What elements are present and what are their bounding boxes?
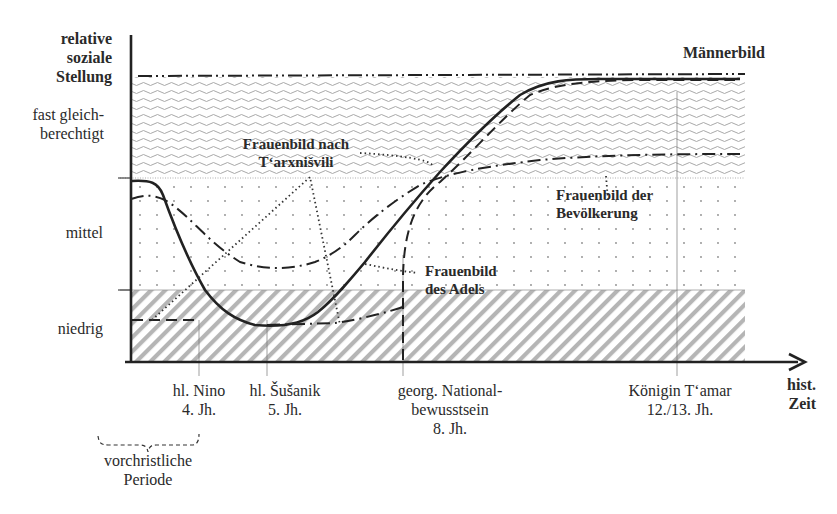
bracket-icon	[98, 434, 199, 452]
label-adel: Frauenbild des Adels	[425, 263, 497, 298]
band-high	[132, 77, 745, 178]
x-tick-susanik: hl. Šušanik 5. Jh.	[225, 382, 345, 420]
y-axis-title: relative soziale Stellung	[40, 30, 112, 87]
label-tarxnisvili: Frauenbild nach T‘arxnišvili	[236, 136, 356, 171]
x-axis-title: hist. Zeit	[760, 376, 816, 414]
x-tick-national: georg. National- bewusstsein 8. Jh.	[375, 382, 525, 439]
bracket-label: vorchristliche Periode	[92, 452, 204, 490]
label-maennerbild: Männerbild	[683, 44, 765, 63]
y-level-low: niedrig	[8, 320, 103, 339]
series-maennerbild	[138, 74, 745, 76]
x-tick-tamar: Königin T‘amar 12./13. Jh.	[605, 382, 755, 420]
label-bevoelkerung: Frauenbild der Bevölkerung	[556, 187, 653, 222]
band-low	[132, 290, 745, 362]
y-level-mid: mittel	[8, 224, 103, 243]
y-level-high: fast gleich- berechtigt	[8, 106, 104, 144]
